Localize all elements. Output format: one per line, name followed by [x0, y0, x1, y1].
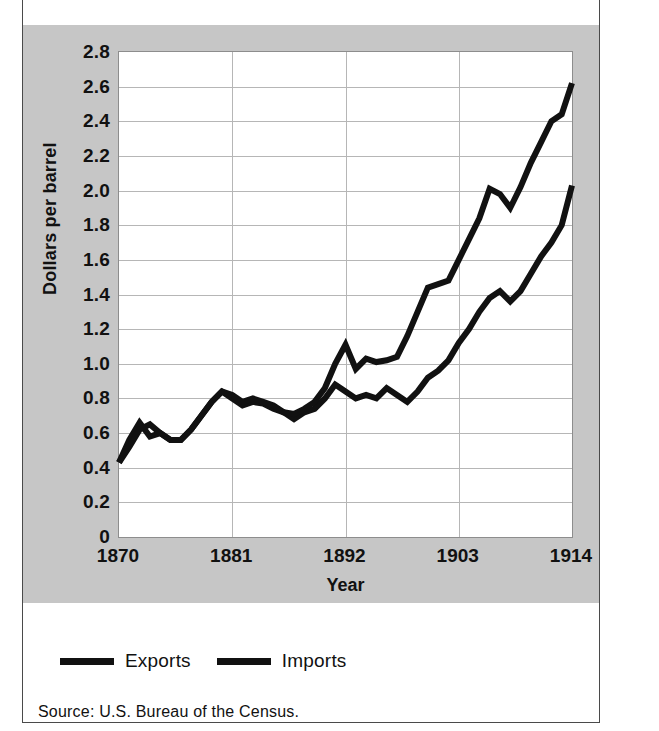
y-axis-tick-label: 1.2 [64, 319, 110, 338]
y-axis-tick-label: 0.2 [64, 492, 110, 511]
series-lines [119, 52, 572, 537]
legend-label-exports: Exports [125, 650, 191, 672]
legend-label-imports: Imports [282, 650, 347, 672]
legend-swatch-exports [60, 658, 114, 665]
legend-swatch-imports [217, 658, 271, 665]
legend-item-exports: Exports [60, 650, 191, 672]
y-axis-tick-label: 1.4 [64, 284, 110, 303]
y-axis-tick-label: 2.8 [64, 42, 110, 61]
y-axis-tick-label: 2.0 [64, 180, 110, 199]
y-axis-tick-label: 2.2 [64, 145, 110, 164]
legend-item-imports: Imports [217, 650, 347, 672]
y-axis-title-host: Dollars per barrel [42, 0, 66, 600]
x-axis-tick-label: 1870 [97, 545, 139, 567]
figure-top-margin [23, 0, 599, 25]
plot-area [118, 51, 573, 538]
y-axis-tick-labels: 00.20.40.60.81.01.21.41.61.82.02.22.42.6… [62, 51, 110, 538]
chart-legend: Exports Imports [60, 650, 347, 672]
x-axis-title: Year [118, 575, 573, 596]
y-axis-tick-label: 0.4 [64, 457, 110, 476]
y-axis-tick-label: 0.8 [64, 388, 110, 407]
x-axis-tick-label: 1881 [210, 545, 252, 567]
x-axis-tick-label: 1903 [437, 545, 479, 567]
x-axis-tick-label: 1892 [323, 545, 365, 567]
y-axis-tick-label: 0 [64, 527, 110, 546]
y-axis-tick-label: 1.6 [64, 249, 110, 268]
y-axis-tick-label: 2.4 [64, 111, 110, 130]
x-axis-tick-labels: 18701881189219031914 [118, 545, 573, 571]
series-line-exports [119, 185, 572, 462]
y-axis-tick-label: 1.8 [64, 215, 110, 234]
x-axis-tick-label: 1914 [550, 545, 592, 567]
y-axis-tick-label: 0.6 [64, 423, 110, 442]
chart-figure: 00.20.40.60.81.01.21.41.61.82.02.22.42.6… [0, 0, 659, 731]
series-line-imports [119, 83, 572, 462]
y-axis-tick-label: 1.0 [64, 353, 110, 372]
y-axis-tick-label: 2.6 [64, 76, 110, 95]
y-axis-title: Dollars per barrel [40, 142, 61, 295]
source-note: Source: U.S. Bureau of the Census. [38, 703, 299, 721]
